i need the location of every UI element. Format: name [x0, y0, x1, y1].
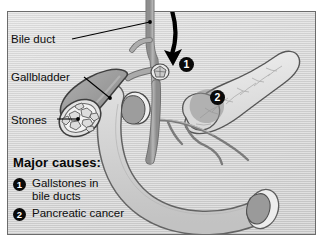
callout-marker-1: 1 — [179, 57, 194, 72]
leader-gallbladder — [84, 77, 110, 98]
major-causes-legend: Major causes: 1 Gallstones in bile ducts… — [13, 155, 124, 226]
label-stones: Stones — [11, 114, 47, 126]
legend-bullet-1: 1 — [13, 178, 26, 191]
legend-heading: Major causes: — [13, 155, 124, 170]
legend-item-2: 2 Pancreatic cancer — [13, 207, 124, 221]
medical-illustration-figure: Bile duct Gallbladder Stones 1 2 Major c… — [0, 0, 325, 245]
label-bile-duct: Bile duct — [11, 33, 55, 45]
legend-item-1-line1: Gallstones in — [32, 177, 98, 190]
legend-item-1-text: Gallstones in bile ducts — [32, 177, 98, 202]
legend-item-1: 1 Gallstones in bile ducts — [13, 177, 124, 202]
legend-item-2-text: Pancreatic cancer — [32, 207, 124, 220]
legend-item-1-line2: bile ducts — [32, 190, 98, 203]
label-gallbladder: Gallbladder — [11, 71, 70, 83]
callout-marker-2: 2 — [210, 90, 225, 105]
leader-bile-duct — [72, 22, 150, 39]
legend-bullet-2: 2 — [13, 208, 26, 221]
legend-item-2-line1: Pancreatic cancer — [32, 207, 124, 220]
